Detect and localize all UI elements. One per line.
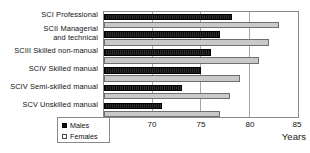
bar-group-sciv-semi [104, 84, 298, 102]
legend-item-females: Females [62, 131, 109, 141]
x-axis-tick-labels: 65 70 75 80 85 [103, 118, 299, 132]
legend-swatch-males-icon [62, 123, 67, 128]
life-expectancy-bar-chart: SCI Professional SCII Managerial and tec… [0, 0, 310, 153]
x-tick-70: 70 [148, 120, 157, 129]
bar-female-scv [104, 111, 220, 118]
bar-male-scv [104, 103, 162, 110]
bar-male-sci [104, 14, 232, 21]
bar-group-scii [104, 30, 298, 48]
x-tick-80: 80 [246, 120, 255, 129]
bar-group-scv [104, 102, 298, 120]
legend-label-females: Females [70, 132, 98, 141]
category-label-sciv-skilled: SCIV Skilled manual [0, 65, 98, 74]
bar-female-sciii [104, 57, 259, 64]
category-label-line: SCIV Semi-skilled manual [10, 82, 98, 91]
chart-legend: Males Females [57, 117, 110, 143]
bar-female-sciv-skilled [104, 75, 240, 82]
legend-swatch-females-icon [62, 134, 67, 139]
category-label-line: SCV Unskilled manual [22, 100, 98, 109]
category-label-sci: SCI Professional [0, 11, 98, 20]
legend-item-males: Males [62, 120, 109, 130]
bar-male-sciii [104, 49, 211, 56]
x-tick-85: 85 [293, 120, 302, 129]
bar-female-scii [104, 39, 269, 46]
category-label-scii: SCII Managerial and technical [0, 25, 98, 42]
bar-male-sciv-semi [104, 85, 182, 92]
category-label-sciv-semi: SCIV Semi-skilled manual [0, 83, 98, 92]
bar-group-sciii [104, 48, 298, 66]
category-axis-labels: SCI Professional SCII Managerial and tec… [0, 10, 101, 118]
category-label-line: and technical [53, 33, 98, 42]
bar-female-sci [104, 22, 279, 29]
legend-label-males: Males [70, 121, 89, 130]
category-label-scv: SCV Unskilled manual [0, 101, 98, 110]
bar-female-sciv-semi [104, 93, 230, 100]
bar-male-sciv-skilled [104, 67, 201, 74]
plot-area [103, 11, 299, 118]
x-axis-title: Years [282, 131, 306, 142]
category-label-line: SCI Professional [41, 10, 98, 19]
bar-male-scii [104, 31, 220, 38]
bar-group-sci [104, 13, 298, 31]
category-label-sciii: SCIII Skilled non-manual [0, 47, 98, 56]
bar-group-sciv-skilled [104, 66, 298, 84]
x-tick-75: 75 [197, 120, 206, 129]
category-label-line: SCIII Skilled non-manual [14, 46, 98, 55]
category-label-line: SCIV Skilled manual [29, 64, 98, 73]
